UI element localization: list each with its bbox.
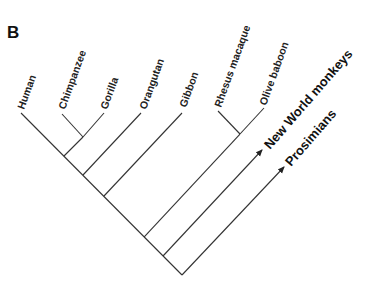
label-gorilla: Gorilla [98,75,121,111]
phylogenetic-tree: Human Chimpanzee Gorilla Orangutan Gibbo… [0,0,365,281]
branch-rhesus-macaque [218,111,240,134]
branch-human [21,113,182,275]
branch-chimp-gorilla-stem [64,137,83,156]
branch-prosimians [182,167,284,275]
branch-old-world-stem [144,134,240,237]
branch-gibbon [104,113,182,196]
label-orangutan: Orangutan [137,57,166,111]
label-olive-baboon: Olive baboon [257,40,291,107]
label-chimpanzee: Chimpanzee [56,48,88,110]
branch-new-world-monkeys [163,150,262,256]
branch-olive-baboon [240,108,264,134]
branch-chimpanzee [62,114,83,137]
branch-gorilla [83,113,104,137]
label-rhesus-macaque: Rhesus macaque [212,23,253,108]
label-gibbon: Gibbon [177,70,201,109]
label-human: Human [15,73,38,111]
